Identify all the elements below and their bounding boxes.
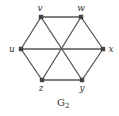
vertex-w (79, 15, 83, 19)
edge-u-v (21, 17, 41, 49)
vertex-u (19, 47, 23, 51)
vertex-y (80, 78, 84, 82)
vertex-label-x: x (108, 44, 113, 54)
graph-diagram: vwuxzy G2 (0, 0, 119, 116)
vertex-label-v: v (37, 3, 42, 13)
graph-caption: G2 (57, 97, 69, 110)
graph-edges (21, 17, 103, 80)
vertex-label-u: u (9, 44, 15, 54)
edge-x-y (82, 49, 103, 80)
edge-w-x (81, 17, 103, 49)
edge-z-u (21, 49, 42, 80)
vertex-z (40, 78, 44, 82)
vertex-v (39, 15, 43, 19)
vertex-label-z: z (38, 83, 44, 93)
vertex-label-y: y (78, 83, 85, 93)
vertex-x (101, 47, 105, 51)
vertex-label-w: w (77, 3, 85, 13)
